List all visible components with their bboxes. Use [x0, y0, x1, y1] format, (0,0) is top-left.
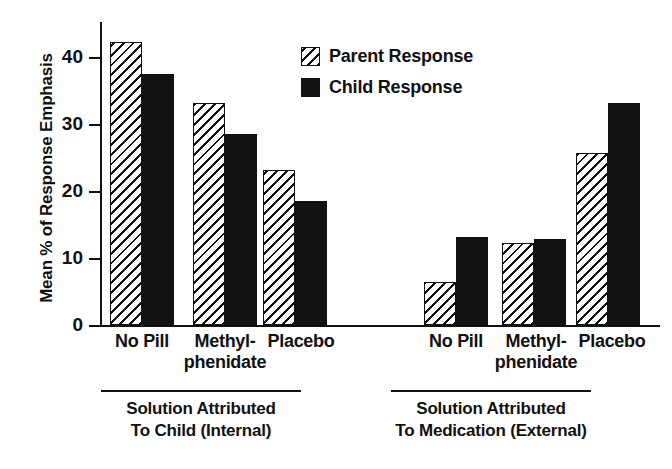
category-label-internal-placebo: Placebo	[251, 331, 351, 352]
panel-caption-external-line2: To Medication (External)	[371, 420, 611, 442]
y-tick-0	[89, 325, 100, 327]
bar-external-methylphenidate-parent	[502, 243, 534, 325]
bar-external-no-pill-parent	[424, 282, 456, 325]
bar-internal-methylphenidate-parent	[193, 103, 225, 325]
bar-internal-placebo-parent	[263, 170, 295, 325]
plot-area: 0 10 20 30 40 Parent Response	[0, 0, 672, 335]
bar-internal-no-pill-child	[142, 74, 174, 325]
panel-caption-internal-line1: Solution Attributed	[101, 398, 301, 420]
panel-caption-external-line1: Solution Attributed	[371, 398, 611, 420]
x-axis-line	[100, 325, 660, 327]
legend-item-parent-response: Parent Response	[301, 41, 561, 72]
panel-rule-internal	[101, 390, 301, 392]
bar-internal-no-pill-parent	[110, 42, 142, 325]
bar-internal-methylphenidate-child	[225, 134, 257, 325]
category-label-external-methyl-line2: phenidate	[486, 352, 586, 373]
bar-external-methylphenidate-child	[534, 239, 566, 325]
category-label-internal-methyl-line2: phenidate	[175, 352, 275, 373]
legend-label-child-response: Child Response	[329, 77, 462, 98]
legend-item-child-response: Child Response	[301, 72, 561, 103]
bar-external-placebo-parent	[576, 153, 608, 325]
chart-legend: Parent Response Child Response	[301, 41, 561, 103]
bar-external-placebo-child	[608, 103, 640, 325]
legend-label-parent-response: Parent Response	[329, 46, 473, 67]
panel-caption-internal-line2: To Child (Internal)	[101, 420, 301, 442]
legend-swatch-solid-icon	[301, 78, 320, 97]
category-label-external-placebo: Placebo	[562, 331, 662, 352]
legend-swatch-hatched-icon	[301, 47, 320, 66]
bar-internal-placebo-child	[295, 201, 327, 325]
bar-chart-figure: Mean % of Response Emphasis 0 10 20 30 4…	[0, 0, 672, 469]
panel-rule-external	[391, 390, 591, 392]
bar-external-no-pill-child	[456, 237, 488, 325]
